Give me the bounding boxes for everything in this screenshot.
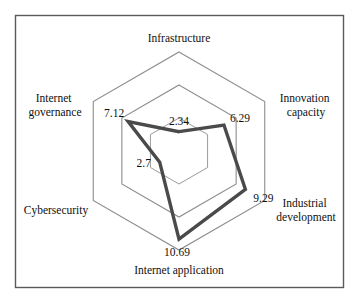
value-label-infrastructure: 2.34 [169,115,189,127]
axis-label-internet-application: Internet application [134,264,224,277]
value-label-internet-governance: 7.12 [104,107,124,119]
radar-chart-svg: Infrastructure Innovation capacity Indus… [0,0,360,307]
axis-label-industrial-development: Industrial development [276,197,336,224]
value-label-cybersecurity: 2.7 [137,157,152,169]
axis-label-cybersecurity: Cybersecurity [24,204,89,217]
value-label-innovation-capacity: 6.29 [230,112,250,124]
axis-label-internet-governance: Internet governance [29,92,82,119]
value-label-internet-application: 10.69 [164,246,190,258]
radar-chart-figure: Infrastructure Innovation capacity Indus… [0,0,360,307]
axis-label-infrastructure: Infrastructure [148,32,211,44]
axis-label-innovation-capacity: Innovation capacity [280,92,333,119]
value-label-industrial-development: 9.29 [253,192,273,204]
